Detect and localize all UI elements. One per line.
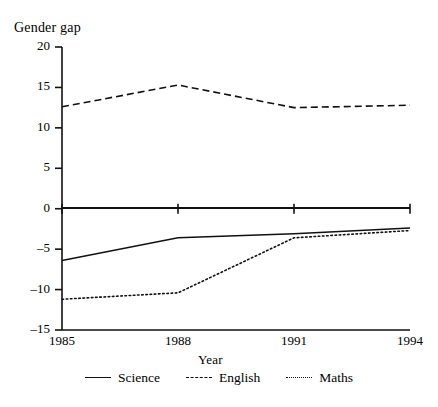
legend-swatch-solid-icon — [85, 377, 111, 380]
y-tick-label: –5 — [16, 240, 50, 256]
y-tick-label: 10 — [16, 119, 50, 135]
y-axis-title: Gender gap — [14, 20, 81, 36]
data-series-group — [62, 85, 410, 299]
gender-gap-line-chart: Gender gap 20151050–5–10–15 198519881991… — [0, 0, 438, 407]
legend-item-maths[interactable]: Maths — [286, 370, 353, 386]
y-tick-label: 5 — [16, 159, 50, 175]
y-tick-label: 20 — [16, 38, 50, 54]
chart-legend: ScienceEnglishMaths — [0, 366, 438, 390]
series-line-english — [62, 85, 410, 108]
legend-label: English — [219, 370, 260, 386]
x-tick-label: 1994 — [384, 333, 436, 349]
y-tick-label: –10 — [16, 281, 50, 297]
y-tick-label: 15 — [16, 78, 50, 94]
legend-item-science[interactable]: Science — [85, 370, 160, 386]
series-line-science — [62, 228, 410, 260]
x-tick-label: 1985 — [36, 333, 88, 349]
y-tick-label: 0 — [16, 200, 50, 216]
legend-item-english[interactable]: English — [186, 370, 260, 386]
series-line-maths — [62, 231, 410, 300]
legend-label: Maths — [319, 370, 353, 386]
x-tick-label: 1988 — [152, 333, 204, 349]
x-tick-label: 1991 — [268, 333, 320, 349]
axes-group — [62, 47, 410, 330]
legend-swatch-dotted-icon — [286, 377, 312, 380]
y-axis-ticks — [55, 47, 62, 330]
legend-label: Science — [118, 370, 160, 386]
legend-swatch-dashed-icon — [186, 377, 212, 380]
